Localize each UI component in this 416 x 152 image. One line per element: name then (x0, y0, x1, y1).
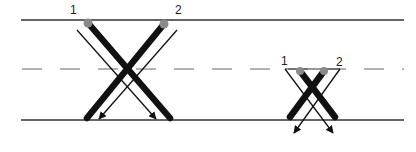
crossing-diagram: 1 2 1 2 (0, 0, 416, 152)
pivot-dot-2 (320, 67, 328, 75)
thin-arrow-2 (99, 30, 177, 119)
label-2: 2 (175, 3, 182, 17)
pivot-dot-1 (296, 67, 304, 75)
label-1: 1 (281, 54, 288, 68)
label-1: 1 (70, 3, 77, 17)
label-2: 2 (336, 55, 343, 69)
pivot-dot-1 (84, 19, 93, 28)
small-cross: 1 2 (281, 54, 343, 133)
pivot-dot-2 (160, 20, 169, 29)
